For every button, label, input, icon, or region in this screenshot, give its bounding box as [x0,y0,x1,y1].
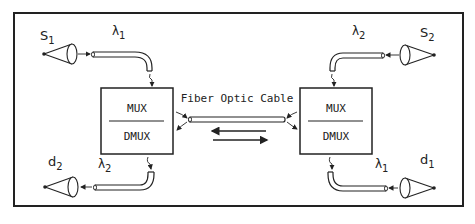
s2-wavelength: λ2 [352,24,365,41]
right-mux-label: MUX [326,102,346,115]
d2-cone-icon [43,177,78,197]
d1-cone-icon [400,178,436,198]
wdm-diagram: MUX DMUX MUX DMUX Fiber Optic Cable S1 λ… [0,0,475,224]
s1-label: S1 [40,28,55,46]
source-s2: S2 λ2 [330,24,436,86]
s1-cone-icon [42,44,77,64]
s2-fiber-pigtail [330,53,383,71]
s1-wavelength: λ1 [112,24,125,41]
left-couple-in-arrow [176,112,187,118]
d2-label: d2 [48,154,63,172]
d1-wavelength: λ1 [375,157,388,174]
d2-wavelength: λ2 [98,157,111,174]
left-mux-label: MUX [127,102,147,115]
d2-fiber-pigtail [95,172,154,190]
d1-label: d1 [420,152,435,170]
s1-fiber-pigtail [93,52,152,71]
left-couple-out-arrow [177,122,187,130]
source-s1: S1 λ1 [40,24,152,86]
left-mux-dmux-box: MUX DMUX [101,88,173,154]
fiber-optic-cable: Fiber Optic Cable [181,92,294,122]
right-dmux-label: DMUX [323,130,350,143]
right-couple-out-arrow [287,122,297,129]
cable-label: Fiber Optic Cable [181,92,294,105]
detector-d1: d1 λ1 [328,152,436,198]
s2-label: S2 [420,25,435,43]
s2-cone-icon [400,45,436,65]
right-mux-dmux-box: MUX DMUX [300,88,372,154]
left-dmux-label: DMUX [124,130,151,143]
d1-fiber-pigtail [328,172,386,191]
diagram-frame [14,13,463,206]
detector-d2: d2 λ2 [43,154,154,197]
right-couple-in-arrow [287,112,297,118]
